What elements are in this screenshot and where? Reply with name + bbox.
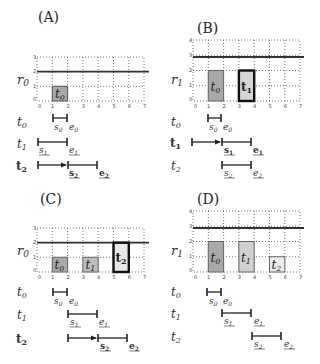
task-box-t0: t0	[52, 86, 67, 102]
svg-text:5: 5	[268, 274, 271, 280]
y-tick-labels: 0 1 2 3 4	[189, 208, 192, 274]
svg-text:1: 1	[33, 254, 36, 260]
svg-text:3: 3	[82, 274, 85, 280]
x-tick-labels: 0 1 2 3 4 5 6 7	[38, 274, 146, 280]
svg-text:2: 2	[67, 103, 70, 109]
timeline-row-t0: t0 s0 e0	[171, 285, 232, 307]
svg-text:1: 1	[207, 103, 210, 109]
y-tick-labels: 0 1 2 3	[33, 54, 36, 103]
task-label: t2	[16, 332, 27, 347]
svg-text:3: 3	[33, 54, 36, 60]
task-box-t1: t1	[83, 257, 98, 273]
svg-text:6: 6	[128, 103, 131, 109]
svg-text:3: 3	[189, 52, 192, 58]
x-tick-labels: 0 1 2 3 4 5 6 7	[38, 103, 146, 109]
svg-text:1: 1	[189, 82, 192, 88]
task-label: t0	[17, 115, 27, 130]
task-label: t1	[171, 307, 181, 322]
start-label: s0	[209, 122, 218, 133]
task-box-t1: t1	[239, 71, 254, 102]
timeline-row-t1: t1 s1 e1	[17, 137, 80, 156]
svg-text:0: 0	[38, 103, 41, 109]
end-label: e0	[223, 296, 232, 307]
start-label: s2	[224, 168, 233, 179]
svg-text:3: 3	[33, 225, 36, 231]
timeline-row-t2: t2 s2 e2	[171, 330, 295, 350]
svg-text:2: 2	[33, 68, 36, 74]
resource-label: r1	[171, 243, 183, 259]
resource-chart: 0 1 2 3 4 5 6 7 0 1 2 3 4 t0	[189, 208, 304, 281]
svg-text:2: 2	[223, 103, 226, 109]
end-label: e0	[69, 296, 78, 307]
start-label: s1	[224, 145, 233, 156]
end-label: e0	[69, 122, 78, 133]
svg-text:1: 1	[51, 274, 54, 280]
svg-text:1: 1	[33, 83, 36, 89]
timeline: t0 s0 e0 t1 s1 e1 t2	[16, 285, 140, 352]
svg-text:6: 6	[284, 274, 287, 280]
task-box-t2: t2	[114, 243, 129, 272]
task-box-t0: t0	[52, 257, 67, 273]
panel-b: (B) 0 1 2 3 4 5 6 7 0	[170, 20, 304, 179]
panel-c: (C) 0 1 2 3 4 5 6 7 0 1	[16, 191, 149, 352]
svg-text:0: 0	[194, 274, 197, 280]
svg-text:3: 3	[238, 274, 241, 280]
svg-text:0: 0	[189, 96, 192, 102]
x-tick-labels: 0 1 2 3 4 5 6 7	[194, 274, 302, 280]
svg-text:6: 6	[128, 274, 131, 280]
resource-chart: 0 1 2 3 4 5 6 7 0 1 2 3 t0	[33, 54, 149, 110]
timeline-row-t2: t2 s2 e2	[16, 159, 110, 179]
end-label: e1	[69, 145, 78, 156]
end-label: e0	[223, 122, 232, 133]
end-label: e2	[129, 341, 139, 352]
start-label: s1	[39, 145, 47, 156]
start-label: s1	[224, 316, 232, 327]
panel-title: (C)	[40, 191, 62, 207]
timeline: t0 s0 e0 t1 s1 e1 t2	[170, 114, 264, 179]
svg-text:3: 3	[189, 223, 192, 229]
panel-title: (D)	[197, 191, 219, 207]
timeline-row-t1: t1 s1 e1	[171, 307, 265, 327]
end-label: e1	[253, 145, 263, 156]
task-label: t0	[171, 285, 181, 300]
timeline-row-t1: t1 s1 e1	[17, 308, 110, 328]
svg-text:3: 3	[238, 103, 241, 109]
start-label: s0	[54, 296, 63, 307]
resource-label: r0	[17, 243, 29, 259]
timeline-row-t1: t1 s1 e1	[170, 136, 264, 156]
svg-text:5: 5	[112, 274, 115, 280]
task-box-t2: t2	[270, 257, 285, 273]
svg-text:5: 5	[268, 103, 271, 109]
x-tick-labels: 0 1 2 3 4 5 6 7	[194, 103, 302, 109]
svg-text:2: 2	[67, 274, 70, 280]
start-label: s0	[209, 296, 218, 307]
panel-a: (A) 0 1 2 3 4 5 6 7 0 1	[16, 9, 149, 179]
start-label: s0	[54, 122, 63, 133]
timeline-row-t2: t2 s2 e2	[171, 159, 264, 179]
svg-text:0: 0	[38, 274, 41, 280]
task-label: t2	[171, 159, 181, 174]
y-tick-labels: 0 1 2 3	[33, 225, 36, 274]
svg-text:1: 1	[189, 253, 192, 259]
start-label: s1	[70, 317, 78, 328]
svg-text:7: 7	[143, 274, 146, 280]
svg-text:6: 6	[284, 103, 287, 109]
resource-label: r1	[171, 72, 183, 88]
svg-text:4: 4	[97, 274, 100, 280]
task-label: t0	[171, 115, 181, 130]
svg-text:7: 7	[143, 103, 146, 109]
task-label: t2	[16, 159, 27, 174]
resource-chart: 0 1 2 3 4 5 6 7 0 1 2 3 t0 t1	[33, 225, 149, 281]
svg-text:7: 7	[299, 103, 302, 109]
resource-label: r0	[17, 72, 29, 88]
end-label: e1	[99, 317, 108, 328]
svg-text:2: 2	[189, 67, 192, 73]
end-label: e1	[254, 316, 263, 327]
timeline-row-t0: t0 s0 e0	[17, 114, 78, 133]
panel-title: (B)	[197, 20, 218, 36]
panel-d: (D) 0 1 2 3 4 5 6 7 0	[171, 191, 304, 350]
svg-text:0: 0	[33, 96, 36, 102]
end-label: e2	[284, 339, 293, 350]
task-label: t1	[17, 137, 27, 152]
timeline: t0 s0 e0 t1 s1 e1 t2	[16, 114, 110, 179]
